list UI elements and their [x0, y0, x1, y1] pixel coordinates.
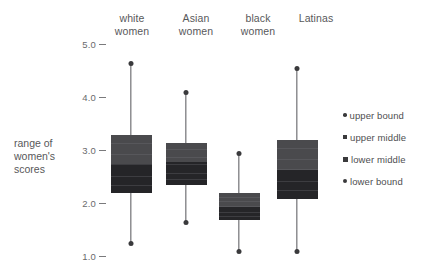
series-white-women — [111, 0, 152, 278]
box-striation-1 — [111, 154, 152, 155]
series-latinas — [277, 0, 318, 278]
legend-marker-dot-medium-icon — [343, 179, 347, 183]
box-striation-3 — [166, 173, 207, 174]
box-striation-3 — [277, 181, 318, 182]
box-striation-0 — [111, 143, 152, 144]
upper-bound-dot — [129, 61, 134, 66]
box-lower-middle-band — [111, 164, 152, 193]
box-striation-2 — [111, 164, 152, 165]
chart-root: white women Asian women black women Lati… — [0, 0, 437, 278]
box-striation-1 — [219, 201, 260, 202]
box-striation-2 — [166, 164, 207, 165]
box-body — [219, 193, 260, 220]
box-striation-3 — [111, 176, 152, 177]
upper-bound-dot — [237, 151, 242, 156]
upper-bound-dot — [184, 90, 189, 95]
legend-marker-square-medium-icon — [343, 157, 348, 162]
box-upper-middle-band — [219, 193, 260, 206]
lower-bound-dot — [237, 249, 242, 254]
box-lower-middle-band — [277, 170, 318, 199]
box-striation-4 — [277, 190, 318, 191]
lower-bound-dot — [129, 241, 134, 246]
legend-label-lower-middle: lower middle — [351, 154, 406, 165]
box-striation-1 — [277, 159, 318, 160]
legend-marker-dot-icon — [343, 113, 347, 117]
box-upper-middle-band — [111, 135, 152, 164]
upper-bound-dot — [295, 66, 300, 71]
box-striation-4 — [219, 216, 260, 217]
box-striation-4 — [111, 185, 152, 186]
box-upper-middle-band — [277, 140, 318, 169]
box-striation-0 — [166, 149, 207, 150]
box-striation-0 — [277, 148, 318, 149]
box-upper-middle-band — [166, 143, 207, 162]
box-striation-4 — [166, 179, 207, 180]
series-black-women — [219, 0, 260, 278]
legend-label-upper-middle: upper middle — [350, 132, 406, 143]
box-striation-0 — [219, 197, 260, 198]
box-striation-2 — [219, 206, 260, 207]
legend-label-lower-bound: lower bound — [350, 176, 403, 187]
box-striation-2 — [277, 169, 318, 170]
box-body — [111, 135, 152, 193]
legend-item-upper-middle: upper middle — [343, 126, 437, 148]
box-striation-3 — [219, 212, 260, 213]
box-body — [166, 143, 207, 185]
box-body — [277, 140, 318, 198]
series-asian-women — [166, 0, 207, 278]
legend-item-lower-middle: lower middle — [343, 148, 437, 170]
lower-bound-dot — [295, 249, 300, 254]
legend-item-lower-bound: lower bound — [343, 170, 437, 192]
legend-item-upper-bound: upper bound — [343, 104, 437, 126]
box-striation-1 — [166, 157, 207, 158]
legend-label-upper-bound: upper bound — [350, 110, 404, 121]
lower-bound-dot — [184, 220, 189, 225]
chart-legend: upper bound upper middle lower middle lo… — [343, 104, 437, 192]
legend-marker-square-small-icon — [343, 135, 347, 139]
